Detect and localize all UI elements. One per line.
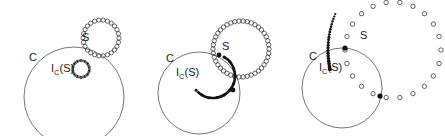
intersection-point xyxy=(231,88,236,93)
marker-open-circle xyxy=(233,20,237,24)
marker-filled-dot xyxy=(223,55,226,58)
marker-open-circle xyxy=(431,22,435,26)
marker-filled-dot xyxy=(232,82,235,85)
intersection-point xyxy=(377,93,382,98)
marker-open-circle xyxy=(101,18,105,22)
marker-filled-dot xyxy=(215,96,218,99)
set-s-markers xyxy=(343,0,443,99)
marker-open-circle xyxy=(115,28,119,32)
marker-filled-dot xyxy=(330,25,333,28)
inversion-figure: C IC(S) S C IC(S) S xyxy=(0,0,445,136)
marker-filled-dot xyxy=(201,94,204,97)
marker-open-circle xyxy=(93,19,97,23)
set-s-markers xyxy=(211,19,271,79)
marker-open-circle xyxy=(384,0,388,4)
marker-open-circle xyxy=(116,32,120,36)
marker-filled-dot xyxy=(329,28,332,31)
label-image-ic-s: IC(S) xyxy=(176,66,199,81)
marker-open-circle xyxy=(345,61,349,65)
label-set-s: S xyxy=(82,31,89,43)
marker-open-circle xyxy=(266,51,270,55)
marker-open-circle xyxy=(359,84,363,88)
marker-filled-dot xyxy=(328,31,331,34)
marker-open-circle xyxy=(371,4,375,8)
marker-open-circle xyxy=(422,84,426,88)
marker-open-circle xyxy=(359,12,363,16)
marker-open-circle xyxy=(439,48,443,52)
marker-open-circle xyxy=(350,74,354,78)
marker-open-circle xyxy=(437,61,441,65)
panel-2-canvas: C IC(S) S xyxy=(148,0,298,136)
marker-filled-dot xyxy=(332,18,334,20)
marker-filled-dot xyxy=(327,44,330,47)
marker-open-circle xyxy=(266,43,270,47)
marker-open-circle xyxy=(350,22,354,26)
marker-filled-dot xyxy=(327,41,330,44)
label-image-arg: (S) xyxy=(327,61,342,73)
marker-open-circle xyxy=(422,12,426,16)
marker-open-circle xyxy=(237,75,241,79)
panel-3-canvas: C IC(S) S xyxy=(298,0,445,136)
marker-filled-dot xyxy=(327,38,330,41)
marker-open-circle xyxy=(437,34,441,38)
marker-filled-dot xyxy=(234,75,237,78)
marker-filled-dot xyxy=(228,60,231,63)
label-circle-c: C xyxy=(309,50,317,62)
marker-open-circle xyxy=(241,19,245,23)
marker-filled-dot xyxy=(331,20,333,22)
marker-open-circle xyxy=(116,40,120,44)
marker-filled-dot xyxy=(330,23,333,26)
intersection-point xyxy=(217,53,222,58)
marker-open-circle xyxy=(266,39,270,43)
marker-open-circle xyxy=(97,18,101,22)
marker-filled-dot xyxy=(208,96,211,99)
label-image-arg: (S) xyxy=(184,66,199,78)
marker-open-circle xyxy=(267,47,271,51)
marker-open-circle xyxy=(398,95,402,99)
marker-open-circle xyxy=(411,91,415,95)
marker-open-circle xyxy=(431,74,435,78)
marker-open-circle xyxy=(117,36,121,40)
marker-open-circle xyxy=(211,47,215,51)
marker-open-circle xyxy=(411,4,415,8)
circle-c-outline xyxy=(24,47,124,136)
marker-open-circle xyxy=(345,34,349,38)
marker-open-circle xyxy=(398,0,402,4)
marker-open-circle xyxy=(237,19,241,23)
marker-filled-dot xyxy=(223,94,226,97)
marker-open-circle xyxy=(97,54,101,58)
label-image-ic-s: IC(S) xyxy=(319,61,342,76)
marker-open-circle xyxy=(211,43,215,47)
panel-large-circle-case: C IC(S) S xyxy=(298,0,445,136)
label-circle-c: C xyxy=(166,52,174,64)
marker-filled-dot xyxy=(333,15,335,17)
marker-open-circle xyxy=(371,91,375,95)
marker-filled-dot xyxy=(334,13,336,15)
panel-overlapping-case: C IC(S) S xyxy=(148,0,298,136)
label-set-s: S xyxy=(222,40,229,52)
marker-open-circle xyxy=(384,95,388,99)
label-circle-c: C xyxy=(29,51,37,63)
marker-filled-dot xyxy=(232,67,235,70)
marker-open-circle xyxy=(212,55,216,59)
panel-1-canvas: C IC(S) S xyxy=(0,0,148,136)
marker-filled-dot xyxy=(328,33,331,36)
marker-filled-dot xyxy=(327,36,330,39)
label-image-ic-s: IC(S) xyxy=(51,62,74,77)
panel-disjoint-case: C IC(S) S xyxy=(0,0,148,136)
marker-filled-dot xyxy=(195,89,198,92)
marker-open-circle xyxy=(245,74,249,78)
marker-open-circle xyxy=(241,75,245,79)
label-image-arg: (S) xyxy=(59,62,74,74)
intersection-point xyxy=(342,45,347,50)
label-set-s: S xyxy=(360,29,367,41)
marker-open-circle xyxy=(105,53,109,57)
